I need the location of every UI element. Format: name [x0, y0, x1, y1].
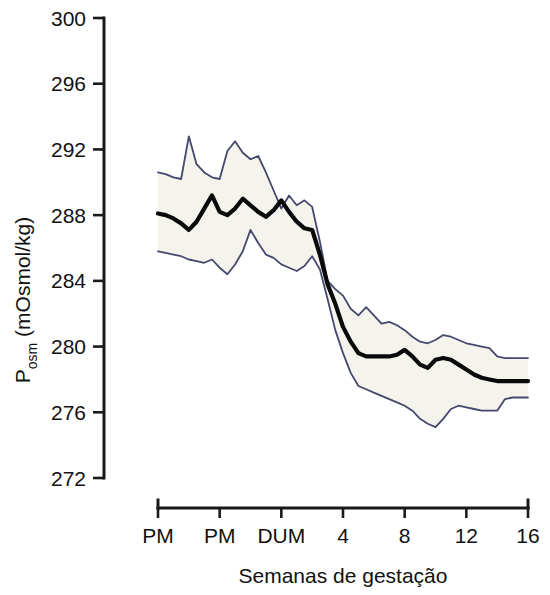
x-axis-title: Semanas de gestação: [239, 564, 448, 587]
x-axis-tick-group: PMPMDUM481216: [142, 508, 539, 547]
sd-band-area: [158, 136, 528, 427]
chart-figure: 300296292288284280276272 PMPMDUM481216 P…: [0, 0, 550, 595]
x-tick-label: PM: [204, 524, 236, 547]
x-tick-label: 8: [399, 524, 411, 547]
y-tick-label: 276: [51, 401, 86, 424]
y-tick-label: 296: [51, 72, 86, 95]
x-tick-label: PM: [142, 524, 174, 547]
x-tick-label: DUM: [257, 524, 305, 547]
y-axis-title-main: P: [11, 369, 34, 383]
y-tick-label: 280: [51, 335, 86, 358]
y-axis-title-unit: (mOsmol/kg): [11, 217, 34, 343]
osmolality-line-chart: 300296292288284280276272 PMPMDUM481216 P…: [0, 0, 550, 595]
y-tick-label: 288: [51, 204, 86, 227]
y-tick-label: 300: [51, 7, 86, 30]
y-tick-label: 292: [51, 138, 86, 161]
y-axis-tick-group: 300296292288284280276272: [51, 7, 104, 490]
y-tick-label: 284: [51, 269, 86, 292]
svg-text:Posm (mOsmol/kg): Posm (mOsmol/kg): [11, 217, 40, 383]
x-tick-label: 12: [455, 524, 478, 547]
y-axis-title-subscript: osm: [24, 343, 40, 369]
y-axis-title: Posm (mOsmol/kg): [11, 217, 40, 383]
x-tick-label: 16: [516, 524, 539, 547]
x-tick-label: 4: [337, 524, 349, 547]
y-tick-label: 272: [51, 467, 86, 490]
